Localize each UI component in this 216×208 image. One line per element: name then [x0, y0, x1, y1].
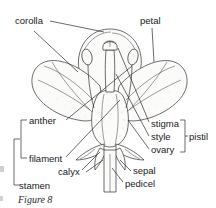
- bracket-stamen-outer: [14, 139, 20, 185]
- label-corolla: corolla: [15, 15, 44, 26]
- label-pistil: pistil: [189, 131, 208, 142]
- page-edge-artifact: [0, 166, 4, 201]
- label-anther: anther: [29, 115, 56, 126]
- leader-calyx-2: [86, 160, 103, 172]
- flower-anatomy-figure: corolla petal anther filament stamen cal…: [0, 0, 216, 208]
- ovary-shape: [92, 90, 129, 147]
- flower-diagram-svg: corolla petal anther filament stamen cal…: [0, 0, 216, 208]
- label-ovary: ovary: [151, 144, 174, 155]
- label-stigma: stigma: [151, 118, 180, 129]
- leader-corolla: [50, 21, 104, 32]
- figure-caption: Figure 8: [17, 194, 52, 205]
- label-filament: filament: [29, 153, 63, 164]
- label-style: style: [151, 131, 171, 142]
- label-sepal: sepal: [133, 165, 156, 176]
- label-stamen: stamen: [19, 180, 50, 191]
- stigma-shape: [103, 41, 117, 50]
- bracket-pistil: [180, 120, 185, 152]
- leader-petal: [152, 28, 154, 62]
- leader-ovary: [128, 120, 149, 149]
- label-petal: petal: [140, 15, 161, 26]
- label-pedicel: pedicel: [125, 178, 155, 189]
- label-calyx: calyx: [58, 166, 80, 177]
- bracket-stamen-inner: [21, 120, 27, 158]
